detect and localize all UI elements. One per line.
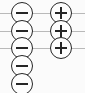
minus-icon-bar [16, 30, 27, 32]
minus-icon-bar [16, 47, 27, 49]
zoom-out-button[interactable] [11, 73, 33, 93]
plus-icon-vertical-bar [60, 25, 62, 36]
minus-icon-bar [16, 65, 27, 67]
plus-icon-vertical-bar [60, 42, 62, 53]
diagram-canvas [0, 0, 85, 93]
minus-icon-bar [16, 12, 27, 14]
plus-icon-vertical-bar [60, 7, 62, 18]
zoom-in-button[interactable] [50, 37, 72, 59]
minus-icon-bar [16, 83, 27, 85]
